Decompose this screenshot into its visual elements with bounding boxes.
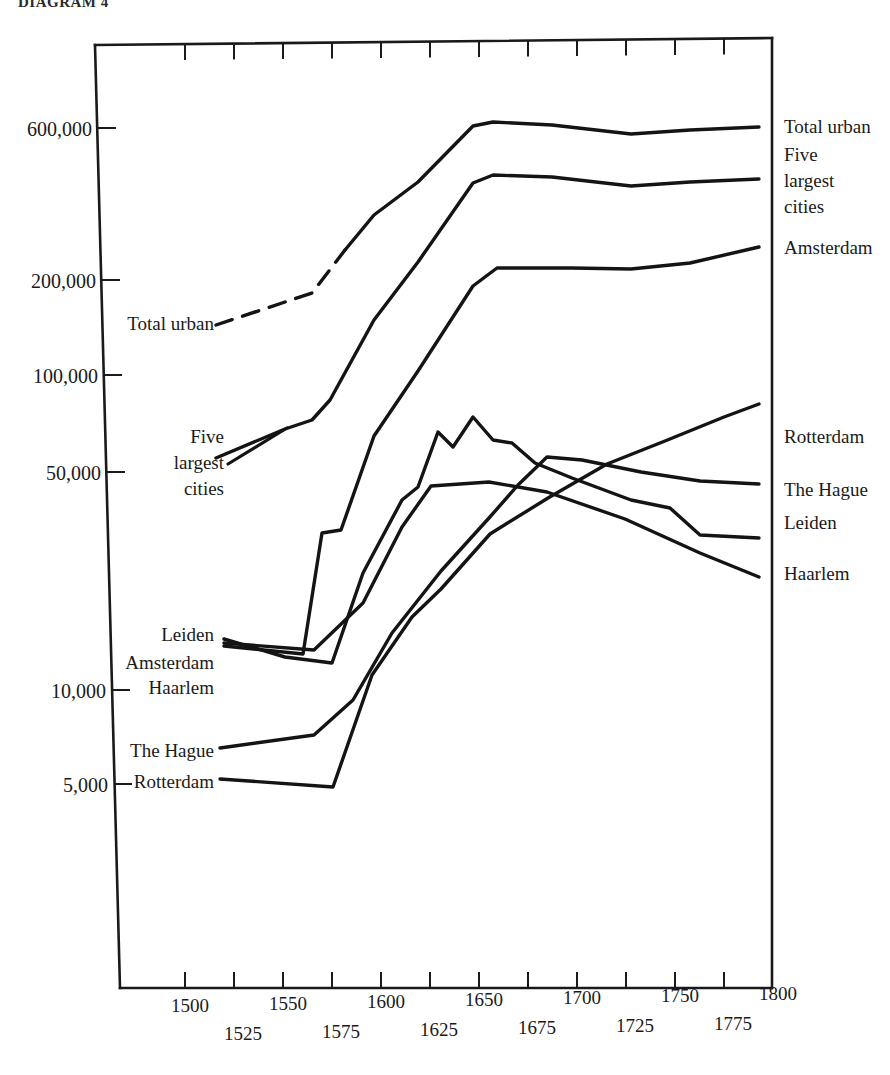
y-tick-labels: 600,000 200,000 100,000 50,000 10,000 5,…: [27, 118, 108, 796]
series-leiden: [224, 417, 759, 663]
series-five-largest-cities: [216, 175, 759, 458]
x-tick-label-1725: 1725: [616, 1015, 654, 1036]
x-tick-label-1525: 1525: [224, 1023, 262, 1044]
x-tick-label-1650: 1650: [465, 989, 503, 1010]
series-rotterdam: [220, 404, 759, 787]
x-tick-label-1700: 1700: [563, 987, 601, 1008]
chart-figure: DIAGRAM 4 600,000 200,000 100,000 50,000…: [0, 0, 890, 1075]
series-label-left-cities: cities: [184, 478, 224, 499]
x-tick-label-1800: 1800: [759, 983, 797, 1004]
y-tick-label-5000: 5,000: [63, 774, 108, 796]
series-label-left-rotterdam: Rotterdam: [134, 771, 214, 792]
series-label-right-total-urban: Total urban: [784, 116, 871, 137]
x-tick-label-1550: 1550: [269, 993, 307, 1014]
series-label-left-leiden: Leiden: [161, 624, 214, 645]
x-tick-label-1675: 1675: [518, 1017, 556, 1038]
series-label-left-the-hague: The Hague: [130, 740, 214, 761]
series-labels-right: Total urban Five largest cities Amsterda…: [784, 116, 873, 584]
y-tick-label-100000: 100,000: [33, 365, 98, 387]
series-total-urban: [345, 122, 759, 250]
x-tick-labels: 1500 1525 1550 1575 1600 1625 1650 1675 …: [171, 983, 797, 1044]
bottom-ticks: [185, 972, 724, 988]
series-labels-left: Total urban Five largest cities Leiden A…: [125, 313, 224, 792]
axis-left: [95, 45, 120, 988]
chart-axes: [95, 38, 772, 988]
series-label-left-largest: largest: [174, 452, 225, 473]
chart-series-group: [216, 122, 759, 787]
series-label-left-amsterdam: Amsterdam: [125, 652, 214, 673]
chart-svg: 600,000 200,000 100,000 50,000 10,000 5,…: [0, 0, 890, 1075]
series-label-right-amsterdam: Amsterdam: [784, 237, 873, 258]
series-label-right-the-hague: The Hague: [784, 479, 868, 500]
series-label-left-haarlem: Haarlem: [149, 677, 215, 698]
x-tick-label-1625: 1625: [420, 1019, 458, 1040]
series-the-hague: [220, 457, 759, 748]
axis-top: [95, 38, 772, 45]
y-tick-label-200000: 200,000: [31, 270, 96, 292]
series-label-left-total-urban: Total urban: [127, 313, 214, 334]
series-label-right-haarlem: Haarlem: [784, 563, 850, 584]
figure-header: DIAGRAM 4: [18, 0, 109, 11]
series-label-right-leiden: Leiden: [784, 512, 837, 533]
leader-five-largest-cities: [228, 428, 287, 464]
x-tick-label-1775: 1775: [714, 1013, 752, 1034]
series-label-right-largest: largest: [784, 170, 835, 191]
y-tick-label-600000: 600,000: [27, 118, 92, 140]
x-tick-label-1575: 1575: [322, 1021, 360, 1042]
x-tick-label-1750: 1750: [661, 985, 699, 1006]
x-tick-label-1600: 1600: [367, 991, 405, 1012]
series-label-right-rotterdam: Rotterdam: [784, 426, 864, 447]
series-amsterdam: [224, 247, 759, 654]
x-tick-label-1500: 1500: [171, 995, 209, 1016]
series-total-urban-dashed: [216, 250, 345, 325]
series-label-right-cities: cities: [784, 196, 824, 217]
series-label-right-five: Five: [784, 144, 818, 165]
series-haarlem: [224, 482, 759, 650]
series-label-left-five: Five: [190, 426, 224, 447]
leader-lines: [228, 428, 287, 464]
y-tick-label-50000: 50,000: [46, 462, 101, 484]
y-tick-label-10000: 10,000: [51, 680, 106, 702]
